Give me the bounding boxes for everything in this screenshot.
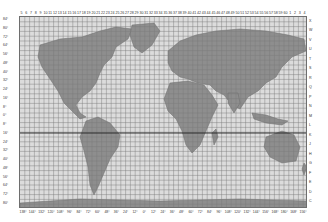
longitude-label: 144° [29, 211, 36, 214]
latitude-band-label: Q [309, 87, 312, 91]
latitude-label: 48° [3, 62, 8, 65]
longitude-label: 168° [290, 211, 297, 214]
longitude-label: 120° [47, 211, 54, 214]
latitude-label: 24° [3, 88, 8, 91]
world-map [20, 17, 307, 208]
latitude-label: 72° [3, 194, 8, 197]
longitude-label: 0° [143, 211, 146, 214]
latitude-band-label: N [309, 105, 312, 109]
latitude-band-label: X [309, 20, 311, 24]
longitude-label: 60° [95, 211, 100, 214]
latitude-band-label: L [309, 124, 311, 128]
latitude-label: 72° [3, 36, 8, 39]
longitude-label: 156° [262, 211, 269, 214]
latitude-band-label: P [309, 96, 311, 100]
latitude-label: 16° [3, 132, 8, 135]
latitude-label: 64° [3, 185, 8, 188]
longitude-label: 36° [114, 211, 119, 214]
latitude-label: 0° [3, 115, 6, 118]
longitude-label: 48° [104, 211, 109, 214]
longitude-label: 12° [151, 211, 156, 214]
longitude-label: 144° [253, 211, 260, 214]
latitude-label: 8° [3, 123, 6, 126]
map-frame [19, 16, 307, 208]
latitude-band-label: G [309, 162, 312, 166]
longitude-label: 120° [234, 211, 241, 214]
latitude-label: 32° [3, 80, 8, 83]
latitude-label: 24° [3, 141, 8, 144]
longitude-label: 96° [216, 211, 221, 214]
latitude-label: 40° [3, 71, 8, 74]
longitude-label: 24° [123, 211, 128, 214]
latitude-band-label: D [309, 191, 312, 195]
latitude-label: 32° [3, 150, 8, 153]
longitude-label: 168° [271, 211, 278, 214]
latitude-band-label: K [309, 134, 311, 138]
latitude-label: 84° [3, 18, 8, 21]
longitude-label: 138° [19, 211, 26, 214]
latitude-band-label: F [309, 172, 311, 176]
longitude-label: 36° [170, 211, 175, 214]
longitude-label: 156° [299, 211, 306, 214]
latitude-label: 8° [3, 106, 6, 109]
latitude-band-label: W [309, 30, 312, 34]
latitude-label: 80° [3, 27, 8, 30]
latitude-band-label: C [309, 200, 312, 204]
longitude-label: 24° [160, 211, 165, 214]
longitude-label: 84° [76, 211, 81, 214]
latitude-band-label: R [309, 77, 312, 81]
longitude-label: 180° [281, 211, 288, 214]
longitude-label: 108° [225, 211, 232, 214]
latitude-band-label: J [309, 143, 311, 147]
latitude-band-label: V [309, 39, 311, 43]
latitude-label: 56° [3, 53, 8, 56]
longitude-label: 48° [179, 211, 184, 214]
latitude-band-label: U [309, 49, 312, 53]
longitude-label: 132° [243, 211, 250, 214]
longitude-label: 72° [198, 211, 203, 214]
longitude-label: 84° [207, 211, 212, 214]
latitude-band-label: S [309, 68, 311, 72]
longitude-label: 132° [38, 211, 45, 214]
latitude-label: 16° [3, 97, 8, 100]
latitude-band-label: T [309, 58, 311, 62]
longitude-label: 72° [86, 211, 91, 214]
latitude-band-label: E [309, 181, 311, 185]
longitude-label: 12° [132, 211, 137, 214]
latitude-band-label: H [309, 153, 312, 157]
latitude-label: 48° [3, 167, 8, 170]
latitude-band-label: M [309, 115, 312, 119]
latitude-label: 80° [3, 202, 8, 205]
latitude-label: 40° [3, 158, 8, 161]
latitude-label: 64° [3, 45, 8, 48]
longitude-label: 96° [67, 211, 72, 214]
latitude-label: 56° [3, 176, 8, 179]
longitude-label: 60° [188, 211, 193, 214]
longitude-label: 108° [57, 211, 64, 214]
